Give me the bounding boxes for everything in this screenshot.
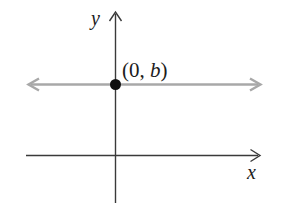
point-label: (0, b) — [122, 58, 168, 82]
y-axis-label: y — [89, 7, 100, 30]
x-axis-label: x — [246, 161, 256, 183]
coordinate-plane-figure: y x (0, b) — [0, 0, 281, 217]
point-label-open: (0, — [122, 58, 150, 82]
point-dot — [110, 79, 121, 90]
point-label-variable: b — [150, 58, 161, 82]
point-label-close: ) — [161, 58, 168, 82]
coordinate-plane-diagram: y x (0, b) — [0, 0, 281, 217]
